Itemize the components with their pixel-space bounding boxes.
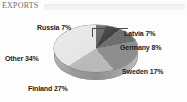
header-divider bbox=[44, 4, 185, 10]
leader-line-vertical bbox=[92, 28, 93, 37]
pie-label-germany: Germany 8% bbox=[120, 44, 161, 51]
pie-label-russia: Russia 7% bbox=[37, 24, 71, 31]
pie-label-sweden: Sweden 17% bbox=[122, 68, 163, 75]
russia-leader-line bbox=[92, 28, 128, 37]
pie-label-finland: Finland 27% bbox=[28, 85, 68, 92]
exports-pie-chart: Russia 7% Latvia 7% Germany 8% Sweden 17… bbox=[0, 11, 187, 93]
leader-line-horizontal bbox=[92, 28, 128, 29]
pie-label-latvia: Latvia 7% bbox=[124, 30, 155, 37]
pie-label-other: Other 34% bbox=[5, 55, 39, 62]
screenshot-root: EXPORTS Russia 7% Latvia 7% Germany 8% S… bbox=[0, 0, 187, 102]
page-title: EXPORTS bbox=[2, 1, 38, 10]
